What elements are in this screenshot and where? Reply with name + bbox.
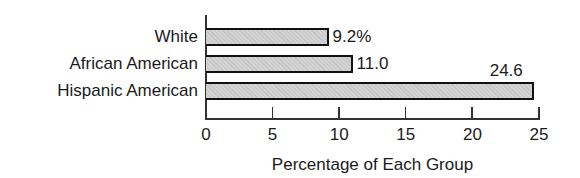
x-tick-5 — [272, 107, 274, 119]
x-tick-15 — [405, 107, 407, 119]
x-tick-label-10: 10 — [319, 126, 359, 144]
x-tick-label-25: 25 — [519, 126, 559, 144]
category-label-white: White — [155, 28, 198, 46]
value-label-african-american: 11.0 — [357, 55, 389, 73]
x-tick-label-0: 0 — [186, 126, 226, 144]
x-tick-label-15: 15 — [386, 126, 426, 144]
horizontal-bar-chart: White African American Hispanic American… — [0, 0, 580, 178]
x-tick-10 — [338, 107, 340, 119]
value-label-hispanic-american: 24.6 — [490, 62, 523, 80]
category-label-african-american: African American — [70, 55, 199, 73]
bar-hispanic-american — [206, 82, 534, 100]
category-label-hispanic-american: Hispanic American — [57, 82, 198, 100]
value-label-white: 9.2% — [333, 28, 372, 46]
bar-white — [206, 28, 329, 46]
x-tick-20 — [471, 107, 473, 119]
x-axis-line — [205, 118, 540, 120]
x-axis-title: Percentage of Each Group — [206, 156, 539, 174]
bar-african-american — [206, 55, 353, 73]
x-tick-label-5: 5 — [253, 126, 293, 144]
x-tick-label-20: 20 — [452, 126, 492, 144]
x-tick-25 — [538, 107, 540, 119]
